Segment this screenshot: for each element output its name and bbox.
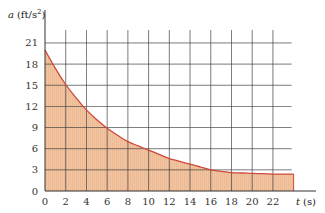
x-tick-label: 20: [246, 196, 259, 207]
acceleration-time-chart: 0246810121416182022 036912151821 a(ft/s2…: [0, 0, 325, 213]
y-tick-label: 12: [25, 101, 38, 112]
y-tick-label: 21: [25, 37, 38, 48]
x-tick-label: 16: [204, 196, 217, 207]
y-tick-label: 9: [32, 122, 38, 133]
y-tick-label: 6: [32, 143, 38, 154]
y-tick-label: 3: [32, 164, 38, 175]
x-tick-label: 22: [267, 196, 280, 207]
y-axis-label: a(ft/s2): [8, 8, 46, 20]
y-tick-label: 0: [32, 186, 38, 197]
y-tick-labels: 036912151821: [25, 37, 38, 196]
y-tick-label: 18: [25, 59, 38, 70]
x-axis-label: t(s): [296, 196, 316, 207]
x-tick-label: 8: [125, 196, 131, 207]
x-tick-label: 6: [104, 196, 110, 207]
x-tick-labels: 0246810121416182022: [42, 196, 279, 207]
x-tick-label: 4: [83, 196, 89, 207]
y-tick-label: 15: [25, 80, 38, 91]
x-tick-label: 0: [42, 196, 48, 207]
x-tick-label: 18: [225, 196, 238, 207]
x-tick-label: 12: [163, 196, 176, 207]
x-tick-label: 2: [63, 196, 69, 207]
x-tick-label: 14: [184, 196, 197, 207]
x-tick-label: 10: [142, 196, 155, 207]
